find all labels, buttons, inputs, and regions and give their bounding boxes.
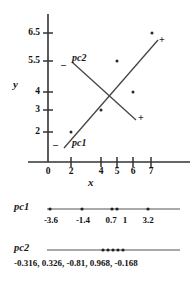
- y-tick-label-6-5: 6.5: [10, 27, 40, 37]
- pc1-number-line-canvas: [0, 200, 195, 222]
- pc2-axis-line: [72, 62, 136, 120]
- pc2-positive-sign: +: [138, 113, 144, 123]
- x-tick-label-6: 6: [126, 166, 140, 176]
- y-axis-title: y: [13, 78, 18, 90]
- pc1-axis-label: pc1: [72, 137, 86, 148]
- y-tick-label-2: 2: [10, 126, 40, 136]
- y-tick-label-5-5: 5.5: [10, 55, 40, 65]
- pc1-score-value-3: 0.7: [100, 215, 122, 225]
- pc1-score-value-5: 3.2: [136, 215, 160, 225]
- data-point: [70, 131, 73, 134]
- pc1-score-dot: [110, 207, 113, 210]
- x-tick-label-0: 0: [41, 166, 55, 176]
- pc1-positive-sign: +: [159, 35, 165, 45]
- data-point: [100, 109, 103, 112]
- pc1-score-line-block: pc1 -3.6 -1.4 0.7 1 3.2: [0, 196, 195, 238]
- pca-figure: 6.5 5.5 4 3 2 0 2 4 5 6 7 y x pc2 – + pc…: [0, 0, 195, 282]
- y-tick-label-3: 3: [10, 104, 40, 114]
- pc1-score-dot: [115, 207, 118, 210]
- pc1-score-dot: [80, 207, 83, 210]
- pc1-score-dot: [146, 207, 149, 210]
- pc2-score-dot: [101, 248, 104, 251]
- pc1-score-dot: [48, 207, 51, 210]
- pc2-score-dot: [121, 248, 124, 251]
- pc1-negative-sign: –: [53, 140, 58, 150]
- pc2-score-dot: [106, 248, 109, 251]
- x-tick-label-4: 4: [94, 166, 108, 176]
- pc2-score-dot: [116, 248, 119, 251]
- data-point: [151, 32, 154, 35]
- pc2-score-dot: [111, 248, 114, 251]
- x-tick-label-2: 2: [64, 166, 78, 176]
- pc2-score-values: -0.316, 0.326, -0.81, 0.968, -0.168: [14, 258, 138, 268]
- data-point: [132, 91, 135, 94]
- x-tick-label-5: 5: [110, 166, 124, 176]
- x-tick-label-7: 7: [144, 166, 158, 176]
- pc1-score-value-4: 1: [120, 215, 130, 225]
- pc2-axis-label: pc2: [72, 52, 86, 63]
- pc1-score-value-1: -3.6: [38, 215, 64, 225]
- scatter-plot: 6.5 5.5 4 3 2 0 2 4 5 6 7 y x pc2 – + pc…: [0, 0, 195, 196]
- pc1-score-value-2: -1.4: [70, 215, 96, 225]
- data-point: [116, 60, 119, 63]
- pc2-score-line-block: pc2 -0.316, 0.326, -0.81, 0.968, -0.168: [0, 238, 195, 282]
- x-axis-title: x: [88, 176, 94, 188]
- pc2-negative-sign: –: [61, 60, 66, 70]
